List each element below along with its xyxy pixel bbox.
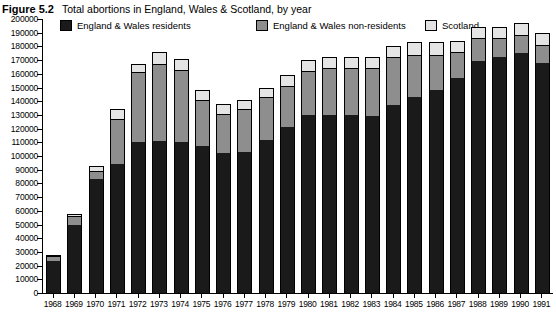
bar-segment-residents	[386, 105, 401, 293]
bar-segment-scotland	[365, 57, 380, 68]
bar-stack	[216, 104, 231, 293]
bar-stack	[89, 166, 104, 293]
bar-segment-scotland	[174, 59, 189, 70]
bar-segment-non-residents	[386, 57, 401, 105]
plot-area	[42, 19, 553, 294]
bar-segment-scotland	[195, 90, 210, 100]
bar-segment-residents	[110, 164, 125, 293]
y-axis-tick-label: 200000	[11, 14, 38, 24]
bar-stack	[514, 23, 529, 293]
x-axis-tick	[95, 294, 96, 298]
bar-segment-residents	[89, 179, 104, 293]
x-axis-tick-label: 1973	[150, 299, 168, 309]
bar-segment-non-residents	[280, 86, 295, 127]
x-axis-tick-label: 1986	[426, 299, 444, 309]
x-axis-tick	[435, 294, 436, 298]
bar-stack	[365, 57, 380, 293]
figure-title: Total abortions in England, Wales & Scot…	[62, 3, 311, 15]
bar-segment-non-residents	[535, 45, 550, 63]
bar-segment-non-residents	[152, 64, 167, 141]
y-axis-tick-label: 20000	[15, 261, 38, 271]
bar-segment-residents	[492, 57, 507, 293]
bar-segment-residents	[152, 141, 167, 293]
bar-segment-residents	[471, 61, 486, 293]
bar-segment-residents	[322, 115, 337, 293]
x-axis-tick	[499, 294, 500, 298]
bar-segment-non-residents	[322, 68, 337, 115]
x-axis-tick	[244, 294, 245, 298]
x-axis-tick	[456, 294, 457, 298]
bar-segment-non-residents	[259, 97, 274, 139]
x-axis-tick-label: 1970	[86, 299, 104, 309]
bar-segment-non-residents	[492, 38, 507, 57]
x-axis-tick-label: 1972	[129, 299, 147, 309]
bar-segment-residents	[365, 116, 380, 293]
x-axis-tick-label: 1974	[171, 299, 189, 309]
figure-container: Figure 5.2 Total abortions in England, W…	[0, 0, 556, 313]
x-axis-tick	[74, 294, 75, 298]
bar-stack	[131, 64, 146, 293]
bar-segment-non-residents	[110, 119, 125, 164]
bar-segment-residents	[514, 53, 529, 293]
x-axis-tick	[308, 294, 309, 298]
x-axis-tick-label: 1977	[235, 299, 253, 309]
bar-stack	[152, 52, 167, 293]
bar-segment-residents	[237, 152, 252, 293]
bar-stack	[535, 33, 550, 293]
bar-segment-residents	[344, 115, 359, 293]
bar-segment-residents	[535, 63, 550, 293]
bar-stack	[237, 100, 252, 293]
bar-segment-non-residents	[195, 100, 210, 147]
x-axis-tick-label: 1981	[320, 299, 338, 309]
bar-segment-residents	[216, 153, 231, 293]
y-axis-tick-label: 120000	[11, 124, 38, 134]
bar-segment-scotland	[131, 64, 146, 72]
bar-stack	[450, 41, 465, 293]
x-axis-tick	[414, 294, 415, 298]
bar-segment-scotland	[514, 23, 529, 35]
bar-stack	[259, 88, 274, 293]
bar-segment-non-residents	[365, 68, 380, 116]
bar-segment-scotland	[386, 46, 401, 57]
bar-stack	[174, 59, 189, 293]
bar-segment-scotland	[344, 57, 359, 68]
x-axis-tick	[53, 294, 54, 298]
bar-stack	[322, 57, 337, 293]
bar-segment-non-residents	[131, 72, 146, 142]
y-axis-tick-label: 170000	[11, 55, 38, 65]
bar-segment-residents	[429, 90, 444, 293]
bar-segment-non-residents	[174, 70, 189, 143]
x-axis-tick	[180, 294, 181, 298]
bar-segment-non-residents	[89, 171, 104, 179]
x-axis-tick-label: 1969	[65, 299, 83, 309]
x-axis-tick	[201, 294, 202, 298]
y-axis-tick-label: 100000	[11, 151, 38, 161]
y-axis-tick-label: 160000	[11, 69, 38, 79]
y-axis: 0100002000030000400005000060000700008000…	[0, 19, 42, 294]
x-axis-tick-label: 1979	[278, 299, 296, 309]
bar-stack	[471, 27, 486, 293]
y-axis-tick-label: 150000	[11, 83, 38, 93]
bar-segment-scotland	[216, 104, 231, 114]
bar-segment-residents	[301, 115, 316, 293]
x-axis: 1968196919701971197219731974197519761977…	[42, 294, 554, 313]
y-axis-tick-label: 110000	[11, 137, 38, 147]
y-axis-tick-label: 10000	[15, 274, 38, 284]
bar-segment-residents	[259, 140, 274, 293]
bar-segment-scotland	[407, 42, 422, 54]
x-axis-tick-label: 1984	[384, 299, 402, 309]
bar-segment-non-residents	[514, 35, 529, 53]
bar-segment-non-residents	[407, 55, 422, 97]
bar-segment-residents	[46, 261, 61, 293]
y-axis-tick-label: 130000	[11, 110, 38, 120]
x-axis-tick-label: 1978	[256, 299, 274, 309]
x-axis-tick-label: 1988	[469, 299, 487, 309]
bar-stack	[67, 214, 82, 293]
bar-segment-scotland	[492, 27, 507, 38]
bar-segment-residents	[67, 225, 82, 294]
x-axis-tick-label: 1968	[44, 299, 62, 309]
bar-segment-scotland	[237, 100, 252, 110]
figure-header: Figure 5.2 Total abortions in England, W…	[2, 1, 311, 16]
bar-stack	[46, 255, 61, 293]
bar-segment-scotland	[322, 57, 337, 68]
